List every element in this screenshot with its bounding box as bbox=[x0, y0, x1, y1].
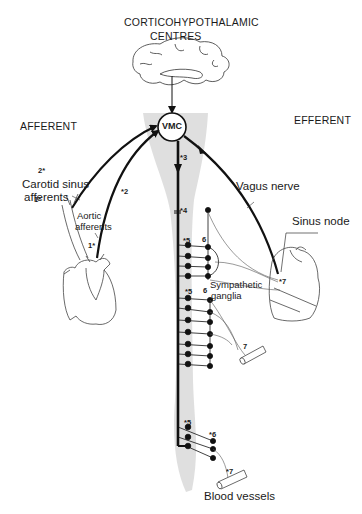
sinus-node-label: Sinus node bbox=[292, 215, 350, 228]
aortic-label-line1: Aortic bbox=[77, 211, 101, 221]
sympathetic-label-line2: ganglia bbox=[211, 291, 242, 301]
marker-4: *4 bbox=[180, 207, 187, 215]
marker-2-aortic: *2 bbox=[121, 188, 128, 196]
marker-5-upper: *5 bbox=[183, 237, 190, 245]
aortic-label-line2: afferents bbox=[75, 222, 112, 232]
efferent-heading: EFFERENT bbox=[294, 115, 351, 127]
marker-1-carotid: 1* bbox=[34, 196, 41, 204]
marker-5-lower: *5 bbox=[184, 419, 191, 427]
right-heart-icon bbox=[269, 247, 319, 321]
marker-2-carotid: 2* bbox=[38, 167, 45, 175]
marker-7-middle: 7 bbox=[243, 343, 247, 351]
marker-5-middle: *5 bbox=[185, 288, 192, 296]
marker-3: *3 bbox=[180, 154, 187, 162]
afferent-heading: AFFERENT bbox=[20, 121, 77, 133]
marker-7-lower: *7 bbox=[226, 468, 233, 476]
marker-7-heart: *7 bbox=[279, 278, 286, 286]
brain-icon bbox=[133, 38, 229, 85]
diagram-canvas bbox=[0, 0, 362, 514]
sympathetic-label-line1: Sympathetic bbox=[210, 280, 262, 290]
blood-vessels-label: Blood vessels bbox=[204, 490, 275, 503]
baroreflex-diagram: CORTICOHYPOTHALAMIC CENTRES AFFERENT EFF… bbox=[0, 0, 362, 514]
carotid-afferent-pathway bbox=[72, 126, 156, 208]
carotid-label-line1: Carotid sinus bbox=[22, 178, 89, 191]
vmc-label: VMC bbox=[162, 122, 182, 132]
title-line1: CORTICOHYPOTHALAMIC bbox=[124, 17, 259, 29]
marker-6-upper: 6 bbox=[202, 236, 206, 244]
sinus-node-pointer bbox=[281, 233, 318, 272]
vagus-label: Vagus nerve bbox=[236, 180, 300, 193]
title-line2: CENTRES bbox=[150, 31, 202, 43]
marker-1-aortic: 1* bbox=[88, 242, 95, 250]
marker-6-middle: 6 bbox=[203, 287, 207, 295]
left-heart-icon bbox=[63, 254, 116, 324]
marker-6-lower: *6 bbox=[209, 431, 216, 439]
carotid-label-line2: afferents bbox=[24, 191, 69, 204]
